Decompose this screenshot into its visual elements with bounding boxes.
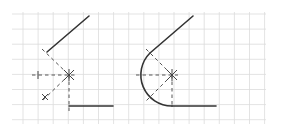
fillet-diagram: [0, 0, 281, 131]
figure-construction: [32, 16, 113, 114]
grid: [12, 12, 266, 124]
cross-mark-lower: [42, 94, 48, 100]
upper-line: [150, 16, 193, 53]
